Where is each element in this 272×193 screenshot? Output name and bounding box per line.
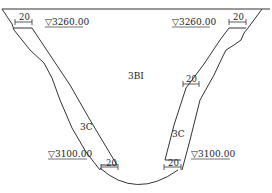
elevation-top-left: ▽3260.00 [45,17,89,27]
svg-text:20: 20 [19,12,30,22]
valley-bottom-curve [100,168,178,185]
zone-label-left-lining: 3C [80,122,93,132]
elevation-top-right: ▽3260.00 [172,17,216,27]
svg-text:20: 20 [168,158,179,168]
svg-text:▽3260.00: ▽3260.00 [172,17,216,27]
svg-text:20: 20 [233,12,244,22]
dimension-mid-right: 20 [183,74,199,87]
svg-text:20: 20 [186,74,197,84]
svg-text:▽3100.00: ▽3100.00 [191,149,235,159]
svg-text:▽3100.00: ▽3100.00 [48,149,92,159]
right-outer-boundary [182,9,262,170]
left-inner-boundary [32,28,117,165]
elevation-bottom-left: ▽3100.00 [48,149,92,159]
left-outer-boundary [2,9,100,170]
svg-text:20: 20 [106,158,117,168]
right-inner-boundary [165,28,229,160]
dimension-bottom-left: 20 [101,158,118,170]
dimension-top-left: 20 [15,12,32,25]
cross-section-drawing: 20 20 20 20 20 [0,0,272,193]
zone-label-center: 3BⅠ [128,71,144,81]
svg-text:▽3260.00: ▽3260.00 [45,17,89,27]
dimension-top-right: 20 [229,12,246,25]
zone-label-right-lining: 3C [172,129,185,139]
elevation-bottom-right: ▽3100.00 [191,149,235,159]
